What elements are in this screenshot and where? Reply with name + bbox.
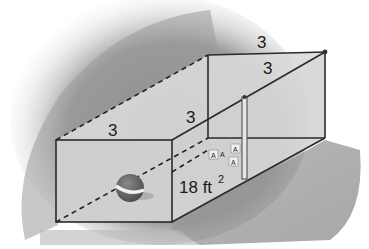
prism-figure: A A A A 3 3 3 3 18 ft 2: [0, 0, 369, 249]
label-area: 18 ft: [179, 178, 212, 197]
svg-text:A: A: [211, 152, 216, 159]
svg-text:A: A: [220, 151, 225, 158]
prism-diagram: A A A A 3 3 3 3 18 ft 2: [0, 0, 369, 249]
svg-text:A: A: [231, 159, 236, 166]
label-front-top: 3: [108, 121, 117, 140]
svg-text:A: A: [233, 146, 238, 153]
support-pole: [242, 95, 247, 179]
label-left-depth: 3: [186, 108, 195, 127]
label-area-exponent: 2: [218, 173, 224, 185]
label-back-top: 3: [257, 33, 266, 52]
label-right-depth: 3: [263, 59, 272, 78]
vertex-dot: [323, 50, 328, 55]
